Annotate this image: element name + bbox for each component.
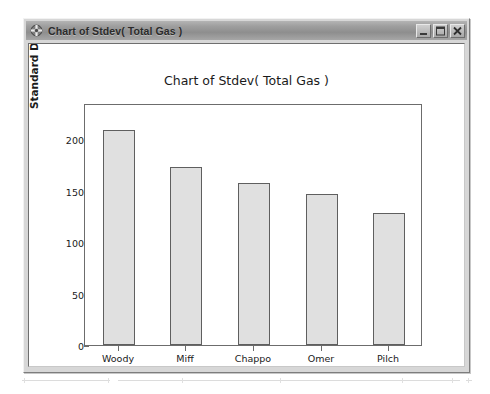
- strip-tick: [280, 378, 281, 383]
- y-tick-label: 50: [58, 289, 84, 300]
- minimize-button[interactable]: [416, 24, 431, 38]
- x-tick-label-omer: Omer: [286, 353, 356, 364]
- desktop-background-strip: [22, 378, 472, 385]
- bar-miff: [170, 167, 202, 345]
- y-axis-title: Standard Deviation of Total Gas: [28, 43, 44, 136]
- window-controls: [416, 24, 465, 38]
- x-axis-title: Person: [84, 366, 422, 367]
- strip-tick: [452, 378, 453, 383]
- y-tick-label: 100: [58, 238, 84, 249]
- strip-tick: [468, 378, 469, 383]
- x-tick-label-pilch: Pilch: [353, 353, 423, 364]
- x-tick-label-miff: Miff: [150, 353, 220, 364]
- bar-chart: Chart of Stdev( Total Gas ) Standard Dev…: [29, 44, 464, 366]
- chart-window[interactable]: Chart of Stdev( Total Gas ) Cha: [23, 18, 470, 373]
- bar-woody: [103, 130, 135, 345]
- strip-segment: [22, 380, 110, 381]
- bars-layer: [85, 105, 421, 345]
- y-tick-label: 200: [58, 135, 84, 146]
- bar-chappo: [238, 183, 270, 345]
- x-tick-mark: [388, 346, 389, 351]
- window-title-bar[interactable]: Chart of Stdev( Total Gas ): [26, 21, 467, 40]
- x-tick-label-woody: Woody: [83, 353, 153, 364]
- x-tick-mark: [118, 346, 119, 351]
- bar-omer: [306, 194, 338, 345]
- bar-pilch: [373, 213, 405, 345]
- strip-tick: [24, 378, 25, 383]
- strip-tick: [108, 378, 109, 383]
- y-axis-ticks: 050100150200: [49, 104, 84, 346]
- x-axis-ticks: WoodyMiffChappoOmerPilch: [84, 346, 422, 367]
- window-client-area: Chart of Stdev( Total Gas ) Standard Dev…: [28, 43, 465, 367]
- crosshair-circle-icon: [30, 24, 43, 37]
- strip-tick: [182, 378, 183, 383]
- strip-segment: [466, 380, 472, 381]
- window-title-text: Chart of Stdev( Total Gas ): [48, 25, 416, 37]
- y-tick-label: 150: [58, 186, 84, 197]
- chart-title: Chart of Stdev( Total Gas ): [29, 73, 464, 88]
- x-tick-mark: [253, 346, 254, 351]
- close-button[interactable]: [450, 24, 465, 38]
- x-tick-label-chappo: Chappo: [218, 353, 288, 364]
- strip-segment: [284, 380, 460, 381]
- x-tick-mark: [185, 346, 186, 351]
- x-tick-mark: [321, 346, 322, 351]
- maximize-button[interactable]: [433, 24, 448, 38]
- y-tick-label: 0: [58, 341, 84, 352]
- plot-area: [84, 104, 422, 346]
- strip-tick: [402, 378, 403, 383]
